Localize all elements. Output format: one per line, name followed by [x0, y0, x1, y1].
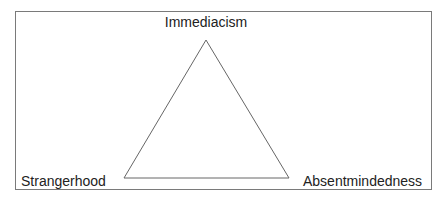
node-label-absentmindedness: Absentmindedness: [303, 174, 422, 188]
triangle-shape: [124, 40, 289, 178]
node-label-immediacism: Immediacism: [163, 15, 249, 29]
triangle-diagram: [0, 0, 447, 202]
node-label-strangerhood: Strangerhood: [21, 174, 106, 188]
